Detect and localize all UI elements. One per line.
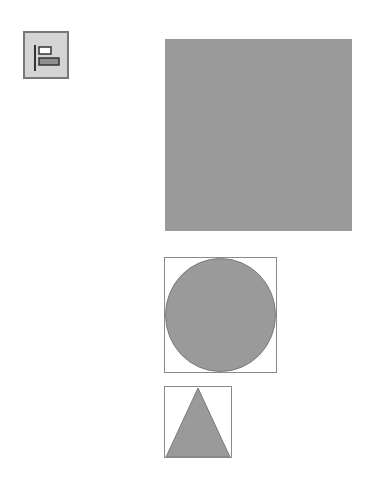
square-shape[interactable] (165, 39, 352, 231)
circle-shape[interactable] (165, 258, 276, 372)
circle-selection-box[interactable] (164, 257, 277, 373)
triangle-shape[interactable] (165, 387, 231, 457)
align-left-button[interactable] (23, 31, 69, 79)
align-left-icon (25, 33, 67, 77)
triangle-selection-box[interactable] (164, 386, 232, 458)
